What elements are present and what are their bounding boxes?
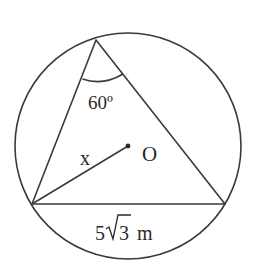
- center-point: [126, 144, 131, 149]
- geometry-figure: 60º x O 5 3 m: [0, 0, 262, 261]
- diagram-canvas: 60º x O 5 3 m: [0, 0, 262, 261]
- base-unit: m: [137, 222, 153, 244]
- base-radicand: 3: [119, 222, 129, 244]
- angle-label: 60º: [88, 92, 113, 113]
- center-label: O: [142, 142, 157, 166]
- angle-arc: [83, 74, 124, 82]
- base-length-label: 5 3 m: [95, 215, 153, 244]
- radius-label: x: [80, 147, 90, 169]
- base-coefficient: 5: [95, 222, 105, 244]
- inscribed-triangle: [32, 40, 225, 204]
